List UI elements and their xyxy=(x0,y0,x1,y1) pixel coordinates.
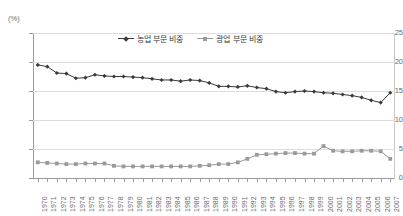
x-tick-mark xyxy=(333,179,334,182)
x-tick-label: 2007 xyxy=(393,196,400,212)
x-tick-mark xyxy=(190,179,191,182)
x-tick-mark xyxy=(228,179,229,182)
data-point xyxy=(64,162,68,166)
data-point xyxy=(264,87,268,91)
x-tick-label: 1974 xyxy=(79,196,86,212)
x-tick-mark xyxy=(200,179,201,182)
x-tick-mark xyxy=(314,179,315,182)
data-point xyxy=(179,165,183,169)
x-tick-mark xyxy=(57,179,58,182)
x-tick-mark xyxy=(66,179,67,182)
data-point xyxy=(245,157,249,161)
x-tick-label: 1984 xyxy=(174,196,181,212)
legend-item-1[interactable]: 농업 부문 비중 xyxy=(118,33,183,44)
x-tick-label: 1979 xyxy=(127,196,134,212)
x-tick-label: 1999 xyxy=(317,196,324,212)
data-point xyxy=(131,75,135,79)
data-point xyxy=(36,160,40,164)
data-point xyxy=(331,91,335,95)
x-tick-mark xyxy=(209,179,210,182)
data-point xyxy=(293,89,297,93)
data-point xyxy=(350,94,354,98)
data-point xyxy=(312,89,316,93)
data-point xyxy=(255,153,259,157)
x-tick-label: 1972 xyxy=(60,196,67,212)
data-point xyxy=(379,149,383,153)
data-point xyxy=(93,73,97,77)
diamond-marker-icon xyxy=(118,35,134,42)
x-tick-mark xyxy=(114,179,115,182)
data-point xyxy=(217,84,221,88)
data-point xyxy=(74,76,78,80)
x-tick-label: 1977 xyxy=(107,196,114,212)
data-point xyxy=(122,165,126,169)
data-point xyxy=(112,164,116,168)
data-point xyxy=(188,78,192,82)
data-point xyxy=(331,149,335,153)
x-tick-label: 1980 xyxy=(136,196,143,212)
x-tick-mark xyxy=(276,179,277,182)
x-tick-label: 1989 xyxy=(222,196,229,212)
data-point xyxy=(140,76,144,80)
data-point xyxy=(283,91,287,95)
legend-label: 농업 부문 비중 xyxy=(137,33,183,44)
data-point xyxy=(388,157,392,161)
data-point xyxy=(369,149,373,153)
data-point xyxy=(236,85,240,89)
data-point xyxy=(141,165,145,169)
x-tick-mark xyxy=(76,179,77,182)
x-tick-label: 1988 xyxy=(212,196,219,212)
y-axis-unit-label: (%) xyxy=(8,14,20,23)
data-point xyxy=(198,78,202,82)
x-tick-label: 1994 xyxy=(269,196,276,212)
x-tick-mark xyxy=(124,179,125,182)
x-tick-label: 1985 xyxy=(184,196,191,212)
x-tick-label: 1981 xyxy=(146,196,153,212)
x-tick-mark xyxy=(85,179,86,182)
x-tick-label: 1973 xyxy=(69,196,76,212)
data-point xyxy=(264,152,268,156)
x-tick-label: 1975 xyxy=(88,196,95,212)
x-tick-mark xyxy=(257,179,258,182)
x-tick-mark xyxy=(152,179,153,182)
x-tick-mark xyxy=(104,179,105,182)
data-point xyxy=(350,149,354,153)
data-point xyxy=(64,72,68,76)
x-tick-label: 2002 xyxy=(346,196,353,212)
x-tick-label: 1997 xyxy=(298,196,305,212)
x-tick-label: 1978 xyxy=(117,196,124,212)
x-tick-label: 2004 xyxy=(365,196,372,212)
data-point xyxy=(188,165,192,169)
x-tick-label: 1983 xyxy=(165,196,172,212)
data-point xyxy=(93,162,97,166)
data-point xyxy=(321,91,325,95)
line-chart: (%) 0510152025 1970197119721973197419751… xyxy=(0,0,403,216)
data-point xyxy=(312,152,316,156)
data-point xyxy=(150,77,154,81)
data-point xyxy=(83,76,87,80)
data-point xyxy=(341,92,345,96)
legend-label: 광업 부문 비중 xyxy=(216,33,262,44)
data-point xyxy=(207,163,211,167)
data-point xyxy=(284,151,288,155)
data-point xyxy=(274,89,278,93)
data-point xyxy=(360,149,364,153)
legend-item-2[interactable]: 광업 부문 비중 xyxy=(197,33,262,44)
x-tick-mark xyxy=(238,179,239,182)
x-tick-mark xyxy=(295,179,296,182)
data-point xyxy=(102,74,106,78)
data-point xyxy=(236,160,240,164)
data-point xyxy=(169,165,173,169)
series-line xyxy=(38,65,390,103)
x-tick-label: 1986 xyxy=(193,196,200,212)
series-line xyxy=(38,146,390,166)
data-point xyxy=(255,85,259,89)
x-tick-mark xyxy=(47,179,48,182)
x-tick-label: 1995 xyxy=(279,196,286,212)
x-tick-mark xyxy=(381,179,382,182)
data-point xyxy=(293,151,297,155)
x-tick-mark xyxy=(95,179,96,182)
x-tick-label: 2005 xyxy=(374,196,381,212)
data-point xyxy=(121,74,125,78)
data-point xyxy=(245,84,249,88)
